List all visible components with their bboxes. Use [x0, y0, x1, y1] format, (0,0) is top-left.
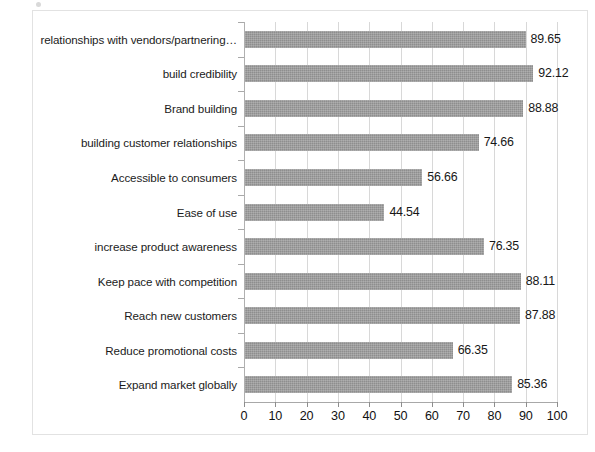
category-label: Reduce promotional costs [105, 343, 237, 358]
bar [245, 169, 422, 186]
category-label: relationships with vendors/partnering… [40, 32, 237, 47]
x-tick-mark-50 [401, 402, 402, 407]
category-label: Keep pace with competition [98, 274, 237, 289]
x-tick-label: 60 [425, 409, 439, 423]
category-label: Brand building [164, 101, 237, 116]
y-tick-mark [238, 22, 244, 23]
y-tick-mark [238, 264, 244, 265]
y-tick-mark [238, 367, 244, 368]
bar-value-label: 85.36 [517, 377, 547, 392]
bar [245, 273, 521, 290]
bar-value-label: 44.54 [389, 205, 419, 220]
category-label: Expand market globally [119, 377, 237, 392]
x-tick-label: 40 [362, 409, 376, 423]
x-tick-mark-70 [463, 402, 464, 407]
y-tick-mark [238, 91, 244, 92]
y-tick-mark [238, 229, 244, 230]
bar [245, 100, 523, 117]
bar [245, 204, 384, 221]
bar-value-label: 74.66 [484, 135, 514, 150]
bar [245, 307, 520, 324]
x-tick-label: 50 [394, 409, 408, 423]
bar [245, 342, 453, 359]
bar [245, 238, 484, 255]
x-tick-label: 100 [547, 409, 567, 423]
bar-chart-figure: relationships with vendors/partnering…89… [0, 0, 595, 452]
x-tick-mark-20 [307, 402, 308, 407]
bar [245, 31, 526, 48]
category-label: increase product awareness [95, 239, 237, 254]
x-tick-label: 80 [488, 409, 502, 423]
bar-value-label: 89.65 [531, 32, 561, 47]
x-tick-mark-100 [557, 402, 558, 407]
x-tick-mark-40 [369, 402, 370, 407]
bar-value-label: 92.12 [538, 66, 568, 81]
y-tick-mark [238, 298, 244, 299]
category-label: Ease of use [177, 205, 237, 220]
bar [245, 376, 512, 393]
y-tick-mark [238, 57, 244, 58]
category-label: Reach new customers [124, 308, 237, 323]
x-tick-label: 20 [300, 409, 314, 423]
bar [245, 134, 479, 151]
x-tick-mark-90 [526, 402, 527, 407]
x-tick-label: 90 [519, 409, 533, 423]
x-tick-label: 70 [456, 409, 470, 423]
x-tick-label: 10 [268, 409, 282, 423]
x-tick-label: 30 [331, 409, 345, 423]
x-tick-mark-10 [275, 402, 276, 407]
category-label: build credibility [163, 66, 237, 81]
category-label: building customer relationships [81, 135, 237, 150]
bar-value-label: 88.88 [528, 101, 558, 116]
y-tick-mark [238, 195, 244, 196]
x-tick-mark-0 [244, 402, 245, 407]
x-tick-mark-30 [338, 402, 339, 407]
bar [245, 65, 533, 82]
bar-value-label: 76.35 [489, 239, 519, 254]
bar-value-label: 87.88 [525, 308, 555, 323]
bar-value-label: 66.35 [458, 343, 488, 358]
x-tick-label: 0 [241, 409, 248, 423]
y-tick-mark [238, 160, 244, 161]
category-label: Accessible to consumers [111, 170, 237, 185]
bar-value-label: 56.66 [427, 170, 457, 185]
bar-value-label: 88.11 [526, 274, 555, 289]
y-tick-mark [238, 126, 244, 127]
scan-artifact-speck [36, 2, 41, 7]
x-tick-mark-80 [494, 402, 495, 407]
y-tick-mark [238, 333, 244, 334]
x-tick-mark-60 [432, 402, 433, 407]
